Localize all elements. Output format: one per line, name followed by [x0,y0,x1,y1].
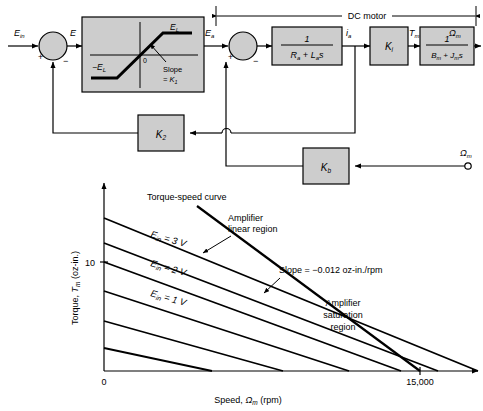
torque-speed-plot: 10 0 15,000 Ein = 3 V Ein = 2 V Ein = 1 … [70,183,478,406]
feedback-path-kb [226,62,303,166]
dc-motor-span: DC motor [216,6,476,26]
signal-label-e: E [70,28,77,38]
dc-motor-span-label: DC motor [348,11,387,21]
mechanical-denominator: Bm + Jms [431,51,463,61]
series-labels: Ein = 3 V Ein = 2 V Ein = 1 V [149,228,189,309]
slope-label: Slope = −0.012 oz-in./rpm [279,265,383,275]
x-tick-label-15000: 15,000 [406,377,434,387]
amplifier-linear-region-line2: linear region [228,224,278,234]
torque-speed-curve-label: Torque-speed curve [147,192,227,202]
slope-annotation: Slope = −0.012 oz-in./rpm [264,265,383,293]
summing-junction-2: + − [228,32,258,66]
figure-root: DC motor Ein + − E 0 EL −EL [0,0,483,411]
summing-junction-1: + − [38,32,68,66]
mechanical-block: 1 Bm + Jms [420,27,474,65]
series-label-2v: Ein = 2 V [149,257,189,279]
block-diagram: DC motor Ein + − E 0 EL −EL [8,6,481,184]
amplifier-saturation-region-annotation: Amplifier saturation region [323,298,363,332]
sum2-minus-sign: − [253,56,258,66]
amplifier-saturation-line1: Amplifier [325,298,360,308]
sum1-minus-sign: − [63,56,68,66]
amplifier-saturation-line3: region [330,322,355,332]
y-axis-title: Torque, Tm (oz-in.) [70,251,81,325]
sum1-plus-sign: + [38,52,43,62]
signal-label-tm: Tm [409,28,420,39]
slope-leader [264,278,280,293]
saturation-slope-label-line1: Slope [163,65,182,74]
amplifier-saturation-line2: saturation [323,310,363,320]
figure-svg: DC motor Ein + − E 0 EL −EL [0,0,483,411]
amplifier-linear-region-line1: Amplifier [228,213,263,223]
saturation-origin-label: 0 [143,57,147,64]
terminal-label-omega: Ωm [460,148,472,159]
signal-label-ea: Ea [205,28,215,39]
series-label-3v: Ein = 3 V [149,228,189,250]
amplifier-linear-region-leader [203,236,231,253]
x-axis-title: Speed, Ωm (rpm) [214,395,281,406]
y-tick-label-10: 10 [85,258,95,268]
sum2-plus-sign: + [228,52,233,62]
torque-constant-block: Ki [370,27,408,65]
back-emf-block: Kb [303,148,349,184]
tachometer-feedback-block: K2 [138,115,184,151]
armature-denominator: Ra + Las [291,50,324,61]
curve-2 [104,321,283,371]
x-tick-label-0: 0 [101,377,106,387]
armature-block: 1 Ra + Las [272,27,342,65]
curve-1 [104,348,212,371]
signal-label-ia: ia [346,28,352,39]
saturation-block: 0 EL −EL Slope = K1 [82,17,204,92]
armature-numerator: 1 [304,34,309,44]
signal-label-ein: Ein [14,28,25,39]
